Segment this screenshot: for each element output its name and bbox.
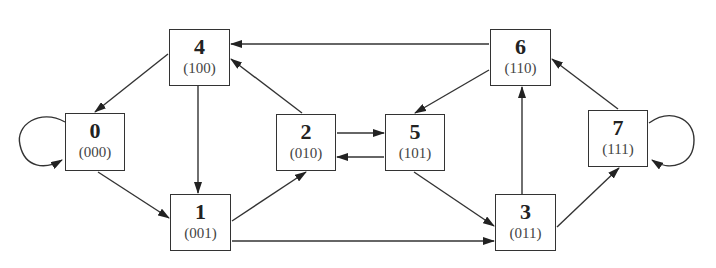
state-number: 5 (386, 121, 444, 143)
edge-0-to-1 (98, 172, 169, 218)
state-number: 7 (589, 117, 647, 139)
state-node-2: 2 (010) (276, 114, 336, 171)
state-number: 4 (170, 36, 229, 58)
state-node-6: 6 (110) (490, 29, 551, 86)
state-bits: (100) (170, 60, 229, 76)
edge-4-to-0 (95, 54, 168, 112)
edge-7-to-6 (552, 59, 618, 109)
state-number: 0 (66, 120, 124, 142)
edge-0-0-self-loop (19, 117, 65, 166)
edge-2-to-4 (231, 59, 302, 113)
state-number: 6 (491, 36, 550, 58)
state-number: 1 (171, 201, 230, 223)
state-bits: (101) (386, 145, 444, 161)
edge-6-to-5 (415, 70, 489, 113)
state-node-1: 1 (001) (170, 194, 231, 251)
state-bits: (000) (66, 144, 124, 160)
state-bits: (001) (171, 225, 230, 241)
state-node-3: 3 (011) (495, 194, 556, 251)
edge-3-to-7 (557, 168, 619, 227)
state-bits: (010) (277, 145, 335, 161)
state-node-7: 7 (111) (588, 110, 648, 167)
state-diagram: 0 (000) 1 (001) 2 (010) 3 (011) 4 (100) … (0, 0, 716, 268)
state-bits: (111) (589, 141, 647, 157)
edge-1-to-2 (232, 172, 306, 221)
state-node-4: 4 (100) (169, 29, 230, 86)
state-number: 2 (277, 121, 335, 143)
edge-7-7-self-loop (649, 116, 694, 166)
state-number: 3 (496, 201, 555, 223)
edge-5-to-3 (414, 172, 494, 226)
state-node-0: 0 (000) (65, 113, 125, 171)
state-bits: (110) (491, 60, 550, 76)
state-bits: (011) (496, 225, 555, 241)
state-node-5: 5 (101) (385, 114, 445, 171)
